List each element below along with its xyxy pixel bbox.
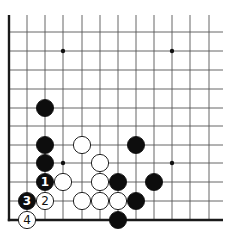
white-stone-icon [91,154,108,171]
black-stone-icon [127,136,144,153]
black-stone-icon [36,136,53,153]
star-point-icon [170,49,174,53]
black-stone-icon [36,154,53,171]
black-stone-icon [109,173,126,190]
white-stone-icon [91,192,108,209]
star-point-icon [170,161,174,165]
white-stone [73,136,90,153]
white-stone [91,173,108,190]
go-board: 1324 [0,0,229,241]
black-stone [127,136,144,153]
black-stone-icon [145,173,162,190]
star-point-icon [61,49,65,53]
black-stone-icon [109,211,126,228]
move-number-label: 2 [41,194,49,208]
black-stone [109,173,126,190]
stones-layer: 1324 [18,99,162,228]
black-stone [127,192,144,209]
star-point-icon [61,161,65,165]
move-number-label: 4 [23,213,31,227]
black-stone [145,173,162,190]
white-stone: 4 [18,211,35,228]
black-stone: 1 [36,173,53,190]
white-stone-icon [54,173,71,190]
white-stone-icon [73,136,90,153]
white-stone-icon [73,192,90,209]
white-stone [73,192,90,209]
black-stone: 3 [18,192,35,209]
white-stone-icon [91,173,108,190]
black-stone-icon [127,192,144,209]
white-stone [91,154,108,171]
white-stone-icon [109,192,126,209]
move-number-label: 1 [41,175,49,189]
black-stone [36,136,53,153]
black-stone [109,211,126,228]
white-stone: 2 [36,192,53,209]
black-stone [36,154,53,171]
white-stone [54,173,71,190]
white-stone [109,192,126,209]
white-stone [91,192,108,209]
black-stone [36,99,53,116]
move-number-label: 3 [23,194,31,208]
black-stone-icon [36,99,53,116]
